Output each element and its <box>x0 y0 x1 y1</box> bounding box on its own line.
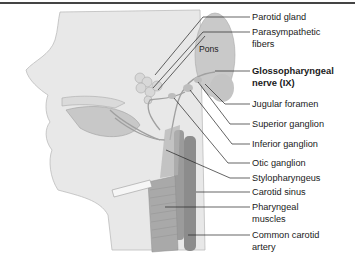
label-line: Parotid gland <box>252 11 306 23</box>
label-line: Stylopharyngeus <box>252 172 320 184</box>
label-glossopharyngeal-nerve: Glossopharyngealnerve (IX) <box>252 65 334 89</box>
label-line: Glossopharyngeal <box>252 65 334 77</box>
otic-ganglion-shape <box>168 93 176 99</box>
label-line: Carotid sinus <box>252 186 306 198</box>
label-parotid-gland: Parotid gland <box>252 11 306 23</box>
label-superior-ganglion: Superior ganglion <box>252 118 324 130</box>
label-line: Jugular foramen <box>252 98 318 110</box>
label-pharyngeal-muscles: Pharyngealmuscles <box>252 201 298 225</box>
label-inferior-ganglion: Inferior ganglion <box>252 138 318 150</box>
label-line: Parasympathetic <box>252 26 320 38</box>
label-line: fibers <box>252 38 320 50</box>
label-line: Pharyngeal <box>252 201 298 213</box>
label-parasympathetic-fibers: Parasympatheticfibers <box>252 26 320 50</box>
label-line: artery <box>252 241 319 253</box>
inferior-ganglion-shape <box>183 84 193 92</box>
label-line: Otic ganglion <box>252 157 306 169</box>
label-stylopharyngeus: Stylopharyngeus <box>252 172 320 184</box>
label-line: Common carotid <box>252 229 319 241</box>
carotid-artery <box>184 136 196 251</box>
label-otic-ganglion: Otic ganglion <box>252 157 306 169</box>
label-line: Inferior ganglion <box>252 138 318 150</box>
label-carotid-sinus: Carotid sinus <box>252 186 306 198</box>
label-common-carotid-artery: Common carotidartery <box>252 229 319 253</box>
label-line: Superior ganglion <box>252 118 324 130</box>
label-line: nerve (IX) <box>252 77 334 89</box>
label-line: muscles <box>252 213 298 225</box>
pons-label: Pons <box>199 44 219 54</box>
label-jugular-foramen: Jugular foramen <box>252 98 318 110</box>
